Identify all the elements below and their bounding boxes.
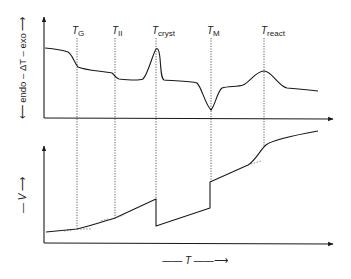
dta-y-label: ⟵ endo – ΔT – exo ⟶ (17, 17, 28, 120)
label-tcryst: Tcryst (152, 25, 176, 38)
transition-markers (77, 38, 264, 230)
label-tm: TM (207, 25, 220, 38)
volume-y-label: — V ⟶ (17, 177, 28, 213)
label-tg: TG (72, 25, 84, 38)
volume-panel: — V ⟶ (17, 131, 333, 244)
transition-labels: TG TII Tcryst TM Treact (72, 25, 286, 38)
dta-dilatometry-diagram: TG TII Tcryst TM Treact ⟵ endo – ΔT – ex… (0, 0, 351, 279)
dta-x-axis (44, 118, 333, 119)
volume-x-axis (44, 243, 333, 244)
label-tii: TII (112, 25, 123, 38)
x-axis-label: —— T ——⟶ (162, 255, 228, 266)
volume-curve (46, 131, 318, 232)
label-treact: Treact (261, 25, 286, 38)
dta-panel: ⟵ endo – ΔT – exo ⟶ (17, 17, 333, 120)
dta-curve (45, 48, 318, 110)
